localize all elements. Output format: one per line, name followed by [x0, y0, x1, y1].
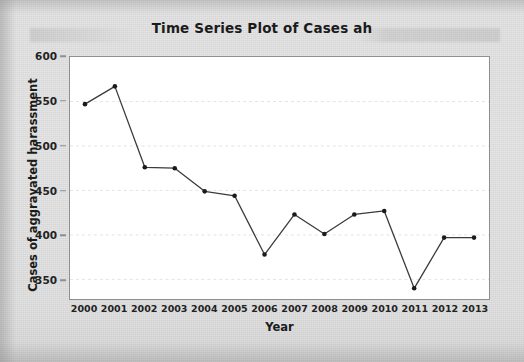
y-tick-mark: [60, 235, 66, 237]
chart-page: Time Series Plot of Cases ah 35040045050…: [0, 0, 524, 362]
data-point[interactable]: [202, 189, 207, 194]
y-tick-mark: [60, 190, 66, 192]
x-tick-label: 2005: [221, 303, 247, 314]
data-point[interactable]: [412, 286, 417, 291]
data-point[interactable]: [262, 252, 267, 257]
scan-edge-shadow-top: [0, 0, 524, 14]
x-tick-label: 2012: [432, 303, 458, 314]
y-tick-mark: [60, 55, 66, 57]
data-point[interactable]: [382, 209, 387, 214]
y-tick-mark: [60, 280, 66, 282]
y-tick-mark: [60, 145, 66, 147]
x-tick-label: 2013: [462, 303, 488, 314]
series-line: [85, 86, 474, 288]
data-point[interactable]: [292, 212, 297, 217]
x-tick-label: 2008: [311, 303, 337, 314]
x-axis: 2000200120022003200420052006200720082009…: [69, 301, 490, 319]
y-tick-label: 600: [35, 50, 57, 62]
plot-area: [69, 56, 490, 300]
x-tick-label: 2006: [251, 303, 277, 314]
data-point[interactable]: [113, 84, 118, 89]
x-tick-label: 2004: [191, 303, 217, 314]
scan-edge-shadow-bottom: [0, 342, 524, 362]
x-tick-label: 2009: [341, 303, 367, 314]
data-point[interactable]: [232, 194, 237, 199]
data-point[interactable]: [83, 102, 88, 107]
data-point[interactable]: [472, 235, 477, 240]
chart-title: Time Series Plot of Cases ah: [0, 20, 524, 36]
y-tick-mark: [60, 100, 66, 102]
data-series-line: [70, 57, 489, 299]
data-point[interactable]: [322, 232, 327, 237]
data-point[interactable]: [143, 165, 148, 170]
x-tick-label: 2010: [372, 303, 398, 314]
data-point[interactable]: [442, 235, 447, 240]
x-tick-label: 2002: [131, 303, 157, 314]
x-tick-label: 2011: [402, 303, 428, 314]
x-tick-label: 2001: [101, 303, 127, 314]
y-axis-title: Cases of aggravated harassment: [26, 70, 40, 300]
x-axis-title: Year: [69, 320, 490, 334]
data-point[interactable]: [172, 166, 177, 171]
data-point[interactable]: [352, 212, 357, 217]
x-tick-label: 2000: [71, 303, 97, 314]
x-tick-label: 2007: [281, 303, 307, 314]
x-tick-label: 2003: [161, 303, 187, 314]
